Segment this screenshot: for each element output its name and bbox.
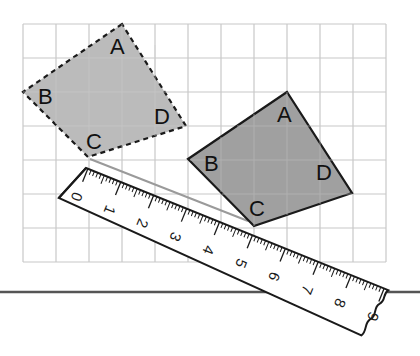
label-A-original: A [110,34,125,59]
label-C-original: C [86,129,102,154]
label-A-image: A [277,102,292,127]
original-square: A B C D [23,24,186,157]
label-B-image: B [204,151,219,176]
geometry-figure: A B C D A B C D [0,0,420,356]
label-D-image: D [316,160,332,185]
label-C-image: C [249,196,265,221]
image-square: A B C D [188,92,352,226]
label-B-original: B [38,84,53,109]
label-D-original: D [154,104,170,129]
